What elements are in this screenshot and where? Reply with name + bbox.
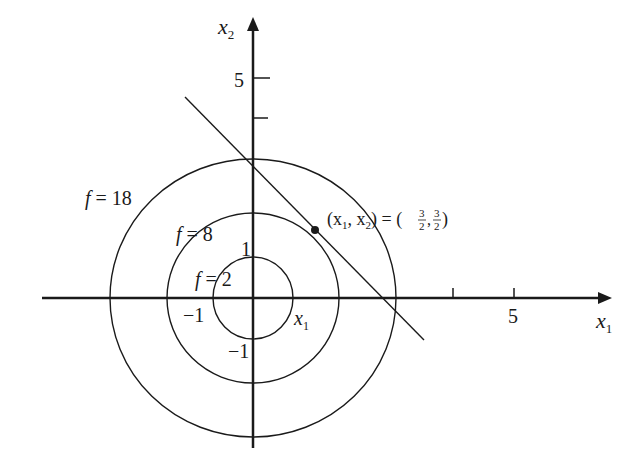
label-f-18: f = 18 (85, 187, 132, 210)
frac2-num: 3 (434, 207, 440, 219)
y-axis-label: x2 (217, 14, 234, 42)
frac1-den: 2 (419, 220, 425, 232)
y-tick-label-neg1: −1 (228, 340, 249, 362)
svg-text:(x1, x2) = (: (x1, x2) = ( (327, 209, 402, 231)
x-axis-arrow-icon (598, 292, 612, 304)
y-tick-label-1: 1 (241, 238, 251, 260)
frac-sep: , (427, 211, 431, 228)
label-close: ) (442, 209, 448, 230)
x-tick-label-5: 5 (508, 305, 518, 327)
y-axis-arrow-icon (247, 17, 259, 31)
frac1-num: 3 (419, 207, 425, 219)
x-axis-label: x1 (595, 308, 612, 336)
x-tick-label-neg1: −1 (183, 304, 204, 326)
inner-x1-label: x1 (293, 307, 309, 333)
y-tick-label-5: 5 (234, 69, 244, 91)
optimum-point (311, 226, 319, 234)
contour-diagram: x2 x1 5 1 −1 −1 5 x1 f = 18 f = 8 f = 2 … (0, 0, 638, 473)
label-f-2: f = 2 (195, 268, 232, 291)
frac2-den: 2 (434, 220, 440, 232)
label-f-8: f = 8 (176, 223, 213, 246)
optimum-label: (x1, x2) = ( 3 2 , 3 2 ) (327, 207, 448, 232)
